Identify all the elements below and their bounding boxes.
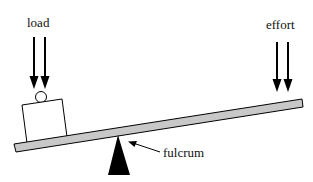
- load-arrows-icon: [30, 37, 50, 89]
- fulcrum-triangle: [108, 135, 130, 175]
- fulcrum-label: fulcrum: [163, 145, 204, 160]
- lever-diagram-svg: load fulcrum effort: [0, 0, 313, 182]
- roller-circle: [36, 92, 47, 103]
- lever-diagram: load fulcrum effort: [0, 0, 313, 182]
- effort-arrows-icon: [273, 42, 293, 92]
- fulcrum-pointer-arrow-icon: [128, 141, 160, 152]
- effort-label: effort: [266, 17, 295, 32]
- load-label: load: [27, 15, 50, 30]
